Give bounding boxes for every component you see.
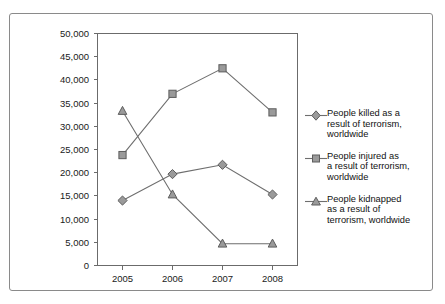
y-tick-label-25000: 25,000 [60,144,89,155]
series-line-1 [123,68,273,155]
y-tick-label-0: 0 [84,260,89,271]
data-point [168,169,177,178]
x-tick-label-2006: 2006 [162,273,183,284]
y-tick-label-20000: 20,000 [60,167,89,178]
data-point [219,65,226,72]
data-point [168,190,177,198]
data-point [119,151,126,158]
chart-legend: People killed as a result of terrorism, … [305,108,433,236]
legend-item-injured: People injured as a result of terrorism,… [305,151,433,183]
series-line-0 [123,165,273,201]
y-tick-label-30000: 30,000 [60,121,89,132]
data-point [118,106,127,114]
x-axis-ticks: 2005 2006 2007 2008 [112,266,283,285]
legend-label-kidnapped: People kidnapped as a result of terroris… [327,194,410,226]
diamond-marker-icon [305,109,327,122]
legend-item-kidnapped: People kidnapped as a result of terroris… [305,194,433,226]
series-diamond [118,160,277,205]
data-point [169,90,176,97]
legend-label-killed: People killed as a result of terrorism, … [327,108,402,140]
triangle-marker-icon [305,195,327,208]
series-layer [118,65,277,247]
y-tick-label-5000: 5,000 [65,237,89,248]
square-marker-icon [305,152,327,165]
series-triangle [118,106,277,247]
legend-label-injured: People injured as a result of terrorism,… [327,151,410,183]
y-tick-label-15000: 15,000 [60,190,89,201]
series-line-2 [123,111,273,244]
x-tick-label-2007: 2007 [212,273,233,284]
y-tick-label-35000: 35,000 [60,98,89,109]
y-tick-label-45000: 45,000 [60,51,89,62]
data-point [268,190,277,199]
figure: 50,000 45,000 40,000 35,000 30,000 25,00… [0,0,445,304]
data-point [269,109,276,116]
data-point [218,160,227,169]
x-tick-label-2005: 2005 [112,273,133,284]
x-tick-label-2008: 2008 [262,273,283,284]
y-tick-label-50000: 50,000 [60,28,89,39]
y-axis-ticks: 50,000 45,000 40,000 35,000 30,000 25,00… [60,28,98,271]
legend-item-killed: People killed as a result of terrorism, … [305,108,433,140]
y-tick-label-40000: 40,000 [60,74,89,85]
data-point [268,239,277,247]
data-point [118,196,127,205]
y-tick-label-10000: 10,000 [60,214,89,225]
